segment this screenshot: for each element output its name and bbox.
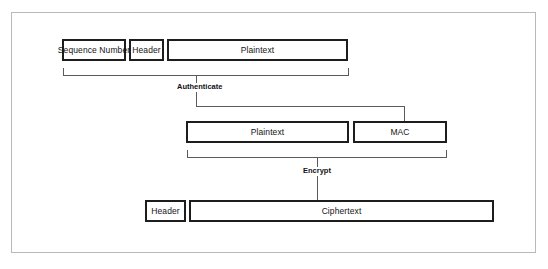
header-label-row1: Header — [132, 45, 160, 54]
plaintext-label-row1: Plaintext — [241, 45, 275, 54]
sequence-number-block: Sequence Number — [62, 39, 126, 61]
authenticate-drop-b — [404, 106, 405, 121]
row1-bracket-right-tick — [348, 68, 349, 76]
plaintext-label-row2: Plaintext — [251, 127, 285, 136]
mac-label: MAC — [390, 127, 409, 136]
header-block-row1: Header — [129, 39, 164, 61]
header-label-row3: Header — [151, 206, 179, 215]
authenticate-drop-a — [196, 92, 197, 106]
encrypt-drop — [317, 176, 318, 200]
ciphertext-block: Ciphertext — [189, 200, 494, 222]
authenticate-elbow-run — [196, 106, 405, 107]
figure-root: Sequence Number Header Plaintext Authent… — [0, 0, 548, 269]
encrypt-step-label: Encrypt — [300, 167, 334, 175]
plaintext-block-row2: Plaintext — [186, 121, 349, 143]
mac-block: MAC — [353, 121, 447, 143]
row2-bracket-right-tick — [446, 150, 447, 158]
sequence-number-label: Sequence Number — [58, 45, 130, 54]
authenticate-step-label: Authenticate — [174, 83, 225, 91]
plaintext-block-row1: Plaintext — [167, 39, 348, 61]
row1-bracket-span — [63, 75, 349, 76]
ciphertext-label: Ciphertext — [322, 206, 362, 215]
header-block-row3: Header — [145, 200, 186, 222]
